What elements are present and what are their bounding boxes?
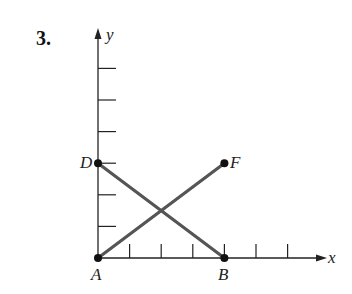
x-axis [98,255,327,262]
point-b [220,254,228,262]
y-axis-ticks [98,68,116,226]
coordinate-diagram: 3. y x D F A B [0,0,352,294]
problem-number: 3. [36,27,51,49]
point-d [94,159,102,167]
y-axis-arrow-icon [95,28,102,39]
x-axis-label: x [327,248,336,267]
point-a [94,254,102,262]
y-axis-label: y [104,25,114,44]
point-label-d: D [79,153,93,172]
segments [98,163,224,258]
x-axis-arrow-icon [316,255,327,262]
y-axis [95,28,102,258]
point-f [220,159,228,167]
point-label-a: A [90,265,102,284]
point-label-b: B [218,265,229,284]
point-label-f: F [229,153,241,172]
